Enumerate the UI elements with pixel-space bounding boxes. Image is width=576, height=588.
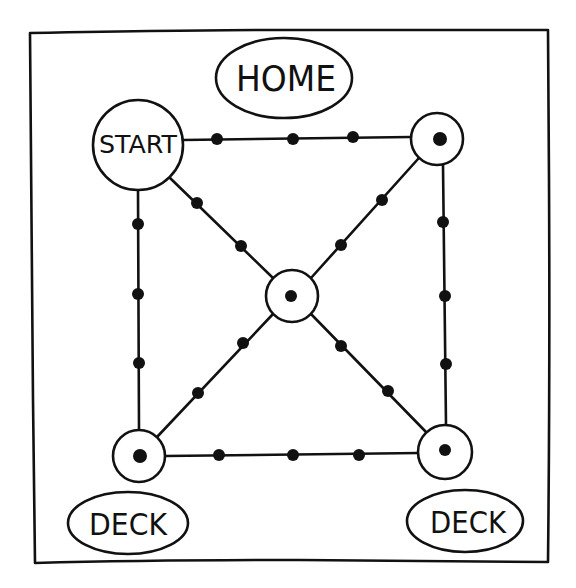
- step-space[interactable]: [211, 133, 223, 145]
- step-space[interactable]: [440, 358, 452, 370]
- step-space[interactable]: [439, 290, 451, 302]
- node-center-dot: [433, 132, 447, 146]
- step-space[interactable]: [287, 133, 299, 145]
- node-bottom-right[interactable]: [418, 425, 472, 479]
- step-space[interactable]: [335, 340, 347, 352]
- path-top-right-center: [311, 159, 418, 278]
- step-space[interactable]: [235, 240, 247, 252]
- step-space[interactable]: [376, 194, 388, 206]
- deck-left[interactable]: DECK: [68, 492, 188, 554]
- step-space[interactable]: [191, 197, 203, 209]
- node-center-dot: [285, 290, 297, 302]
- path-bottom-left-center: [157, 314, 273, 437]
- node-center-dot: [133, 449, 147, 463]
- step-space[interactable]: [353, 449, 365, 461]
- node-bottom-left[interactable]: [113, 430, 165, 482]
- step-space[interactable]: [437, 216, 449, 228]
- step-space[interactable]: [192, 387, 204, 399]
- home-zone[interactable]: HOME: [216, 38, 352, 118]
- path-start-center: [169, 177, 273, 278]
- step-space[interactable]: [347, 131, 359, 143]
- game-board: HOME START DECK DECK: [0, 0, 576, 588]
- step-space[interactable]: [237, 337, 249, 349]
- step-space[interactable]: [335, 239, 347, 251]
- deck-right[interactable]: DECK: [407, 490, 523, 552]
- start-label: START: [99, 131, 177, 159]
- node-center[interactable]: [266, 270, 318, 322]
- step-space[interactable]: [132, 288, 144, 300]
- deck-right-label: DECK: [430, 505, 507, 540]
- node-center-dot: [439, 444, 451, 456]
- step-space[interactable]: [213, 449, 225, 461]
- path-center-bottom-right: [311, 314, 427, 433]
- step-space[interactable]: [132, 218, 144, 230]
- step-space[interactable]: [133, 357, 145, 369]
- home-label: HOME: [236, 58, 336, 99]
- deck-left-label: DECK: [89, 507, 168, 542]
- start-node[interactable]: START: [93, 100, 183, 190]
- step-space[interactable]: [287, 449, 299, 461]
- node-top-right[interactable]: [411, 113, 463, 165]
- step-space[interactable]: [382, 385, 394, 397]
